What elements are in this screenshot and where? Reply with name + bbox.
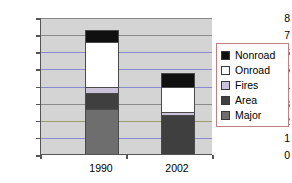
y-tick-label: 0: [276, 150, 290, 160]
bar-2002[interactable]: [161, 73, 195, 155]
bar-1990[interactable]: [85, 30, 119, 155]
x-tick-mark: [126, 155, 128, 159]
legend-item-fires[interactable]: Fires: [221, 78, 285, 93]
x-tick-label-2002: 2002: [157, 162, 197, 174]
bar-segment-onroad[interactable]: [161, 87, 195, 113]
bar-segment-nonroad[interactable]: [161, 73, 195, 87]
legend-swatch-area: [221, 96, 230, 105]
plot-area: [40, 18, 212, 155]
legend-item-major[interactable]: Major: [221, 108, 285, 123]
x-axis-line: [41, 154, 212, 156]
legend-label: Nonroad: [235, 50, 275, 61]
bar-segment-nonroad[interactable]: [85, 30, 119, 42]
legend-swatch-onroad: [221, 66, 230, 75]
bar-segment-major[interactable]: [85, 109, 119, 155]
legend-swatch-nonroad: [221, 51, 230, 60]
gridline: [41, 52, 212, 53]
chart-legend: NonroadOnroadFiresAreaMajor: [216, 43, 289, 127]
legend-label: Fires: [235, 80, 258, 91]
legend-item-area[interactable]: Area: [221, 93, 285, 108]
legend-swatch-fires: [221, 81, 230, 90]
legend-item-onroad[interactable]: Onroad: [221, 63, 285, 78]
y-tick-label: 8: [276, 13, 290, 23]
plot-inner: [41, 18, 212, 155]
legend-label: Onroad: [235, 65, 270, 76]
chart-container: Million tons/year 012345678 19902002 Non…: [0, 0, 292, 183]
bar-segment-onroad[interactable]: [85, 42, 119, 87]
legend-swatch-major: [221, 111, 230, 120]
x-tick-label-1990: 1990: [81, 162, 121, 174]
x-tick-mark: [212, 155, 214, 159]
legend-label: Major: [235, 110, 261, 121]
bar-segment-area[interactable]: [85, 93, 119, 109]
x-tick-mark: [40, 155, 42, 159]
y-tick-label: 1: [276, 133, 290, 143]
y-tick-label: 7: [276, 30, 290, 40]
legend-label: Area: [235, 95, 257, 106]
gridline: [41, 69, 212, 70]
legend-item-nonroad[interactable]: Nonroad: [221, 48, 285, 63]
bar-segment-area[interactable]: [161, 115, 195, 155]
gridline: [41, 18, 212, 19]
gridline: [41, 35, 212, 36]
